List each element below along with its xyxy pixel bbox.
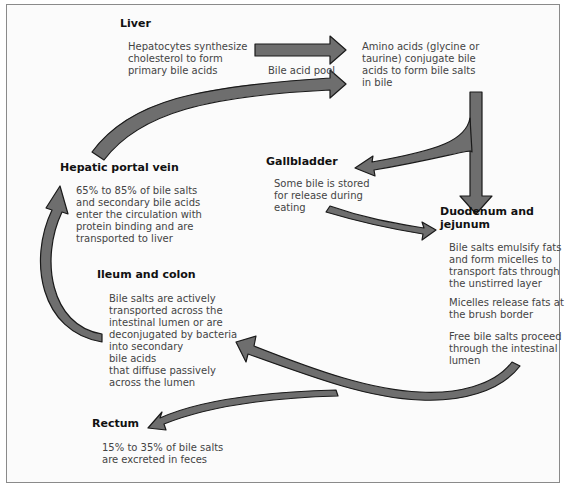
arrow-to-gallbladder	[355, 118, 472, 176]
duodenum-text-2: Micelles release fats at the brush borde…	[449, 297, 564, 321]
arrow-portal-to-pool	[92, 70, 346, 160]
rectum-heading: Rectum	[92, 417, 139, 430]
liver-heading: Liver	[120, 17, 151, 30]
gallbladder-heading: Gallbladder	[266, 155, 338, 168]
duodenum-heading: Duodenum and jejunum	[440, 205, 534, 231]
rectum-text: 15% to 35% of bile salts are excreted in…	[102, 442, 223, 466]
arrow-conjugation-to-duodenum	[460, 92, 492, 214]
arrow-to-rectum	[148, 390, 338, 430]
arrow-liver-to-conjugation	[255, 36, 346, 64]
conjugation-text: Amino acids (glycine or taurine) conjuga…	[362, 41, 479, 89]
duodenum-text-1: Bile salts emulsify fats and form micell…	[449, 242, 561, 290]
bile-acid-pool-label: Bile acid pool	[268, 65, 335, 76]
hepatic-portal-vein-heading: Hepatic portal vein	[60, 161, 179, 174]
hepatic-portal-vein-text: 65% to 85% of bile salts and secondary b…	[76, 185, 202, 245]
duodenum-text-3: Free bile salts proceed through the inte…	[449, 331, 562, 367]
liver-text: Hepatocytes synthesize cholesterol to fo…	[128, 41, 247, 77]
ileum-colon-heading: Ileum and colon	[97, 268, 196, 281]
ileum-colon-text: Bile salts are actively transported acro…	[109, 293, 237, 389]
gallbladder-text: Some bile is stored for release during e…	[274, 178, 370, 214]
